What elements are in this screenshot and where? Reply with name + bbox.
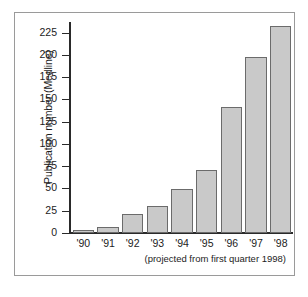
y-axis-tick: 225: [62, 33, 70, 34]
y-axis-tick: 50: [62, 188, 70, 189]
y-axis-tick-label: 225: [39, 27, 57, 38]
plot-area: 0255075100125150175200225 '90'91'92'93'9…: [15, 13, 294, 275]
bar-90: [73, 230, 94, 233]
y-axis-tick: 125: [62, 122, 70, 123]
y-axis-tick: 150: [62, 99, 70, 100]
y-axis-tick-label: 125: [39, 116, 57, 127]
x-axis-tick-label: '91: [96, 237, 121, 249]
chart-footnote: (projected from first quarter 1998): [15, 253, 286, 264]
y-axis-tick-label: 75: [45, 160, 57, 171]
y-axis-tick: 75: [62, 166, 70, 167]
bar-98: [270, 26, 291, 233]
y-axis-tick: 175: [62, 77, 70, 78]
x-axis-tick-label: '98: [268, 237, 293, 249]
y-axis-tick-label: 50: [45, 182, 57, 193]
y-axis-tick: 0: [62, 233, 70, 234]
x-axis-tick-label: '95: [194, 237, 219, 249]
x-axis-tick-label: '94: [170, 237, 195, 249]
bar-97: [245, 57, 266, 233]
y-axis-tick-label: 100: [39, 138, 57, 149]
y-axis-tick-label: 175: [39, 71, 57, 82]
x-axis-tick-label: '90: [71, 237, 96, 249]
x-axis-tick-label: '97: [244, 237, 269, 249]
x-axis-tick-label: '92: [120, 237, 145, 249]
y-axis-tick-label: 25: [45, 205, 57, 216]
x-axis-tick-label: '96: [219, 237, 244, 249]
bar-93: [147, 206, 168, 233]
bar-92: [122, 214, 143, 233]
bar-95: [196, 170, 217, 233]
y-axis-tick: 25: [62, 211, 70, 212]
y-axis-tick-label: 200: [39, 49, 57, 60]
bar-96: [221, 107, 242, 233]
y-axis-tick-label: 0: [51, 227, 57, 238]
y-axis-tick: 200: [62, 55, 70, 56]
y-axis-tick-label: 150: [39, 93, 57, 104]
figure-frame: Publication number (Medline) 02550751001…: [14, 12, 295, 276]
y-axis-tick: 100: [62, 144, 70, 145]
x-axis-tick-label: '93: [145, 237, 170, 249]
bars-container: [71, 22, 293, 233]
bar-94: [171, 189, 192, 233]
bar-91: [97, 227, 118, 233]
